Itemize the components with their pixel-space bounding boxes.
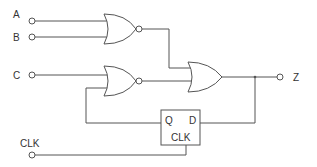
nor-gate-1-bubble: [136, 26, 142, 32]
output-label-z: Z: [293, 72, 299, 83]
flipflop-clk-label: CLK: [171, 132, 191, 143]
input-label-c: C: [13, 70, 20, 81]
input-terminal-c: [29, 72, 35, 78]
flipflop-q-label: Q: [165, 115, 173, 126]
nor-gate-1: [104, 14, 136, 44]
input-label-b: B: [13, 32, 20, 43]
nor-gate-2-bubble: [136, 78, 142, 84]
nor-gate-2: [104, 66, 136, 96]
input-terminal-a: [29, 18, 35, 24]
flipflop-d-label: D: [189, 115, 196, 126]
output-terminal-z: [277, 74, 283, 80]
circuit-diagram: A B C CLK Z Q D CLK: [0, 0, 317, 167]
input-terminal-b: [29, 34, 35, 40]
or-gate: [188, 62, 222, 92]
wire-nor1-to-or: [142, 29, 194, 68]
input-label-clk: CLK: [20, 138, 40, 149]
wire-q-feedback: [86, 88, 161, 123]
input-terminal-clk: [29, 152, 35, 158]
input-label-a: A: [13, 9, 20, 20]
wire-clk: [35, 145, 186, 155]
